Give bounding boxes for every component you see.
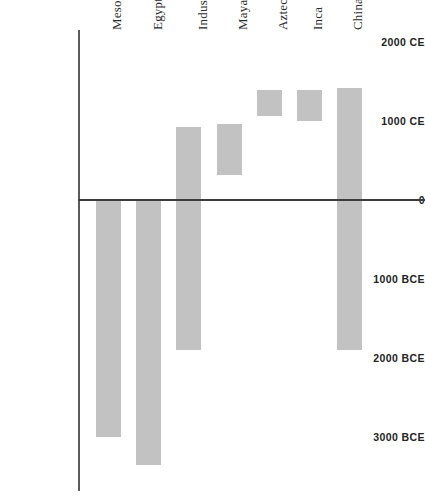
category-label-egypt: Egypt (150, 0, 166, 30)
y-axis-line (78, 30, 80, 491)
category-label-maya: Maya (235, 0, 251, 30)
bar-mesopotamia (96, 200, 121, 437)
bar-inca (297, 90, 322, 121)
y-tick-label-2000bce: 2000 BCE (353, 352, 425, 364)
y-tick-label-2000ce: 2000 CE (353, 36, 425, 48)
zero-baseline (78, 199, 425, 201)
bar-maya (217, 124, 242, 175)
category-label-aztec: Aztec (275, 0, 291, 30)
civilizations-timeline-chart: 2000 CE 1000 CE 0 1000 BCE 2000 BCE 3000… (0, 0, 425, 501)
bar-indus-valley (176, 127, 201, 350)
bar-china (337, 88, 362, 350)
bar-egypt (136, 200, 161, 465)
category-label-mesopotamia: Mesopotamia (109, 0, 125, 30)
y-tick-label-1000ce: 1000 CE (353, 115, 425, 127)
category-label-indus-valley: Indus Valley (195, 0, 211, 30)
category-label-inca: Inca (310, 7, 326, 30)
y-tick-label-1000bce: 1000 BCE (353, 273, 425, 285)
category-label-china: China (350, 0, 366, 30)
bar-aztec (257, 90, 282, 116)
y-tick-label-3000bce: 3000 BCE (353, 431, 425, 443)
